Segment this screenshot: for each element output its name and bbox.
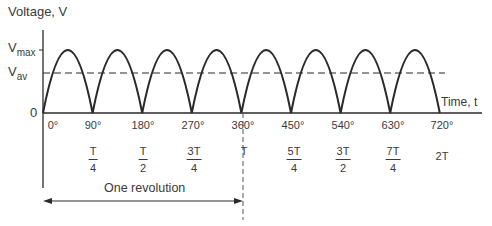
angle-tick: 450° (282, 119, 305, 131)
angle-tick: 540° (332, 119, 355, 131)
arrow-head-right-icon (234, 198, 243, 204)
angle-tick: 360° (232, 119, 255, 131)
time-tick: 2T (436, 150, 449, 162)
vav-label: Vav (8, 64, 27, 82)
time-tick: T2 (139, 145, 148, 175)
time-tick: T (241, 145, 248, 157)
angle-tick: 180° (132, 119, 155, 131)
time-tick: 3T4 (187, 145, 202, 175)
time-tick: T4 (89, 145, 98, 175)
angle-tick: 720° (431, 119, 454, 131)
time-tick: 7T4 (386, 145, 401, 175)
angle-tick: 270° (182, 119, 205, 131)
x-axis-label: Time, t (441, 95, 477, 109)
angle-tick: 630° (382, 119, 405, 131)
waveform-diagram (0, 0, 492, 226)
origin-label: 0 (30, 105, 37, 120)
time-tick: 5T4 (287, 145, 302, 175)
angle-tick: 0° (48, 119, 59, 131)
y-axis-label: Voltage, V (8, 4, 67, 19)
time-tick: 3T2 (336, 145, 351, 175)
revolution-label: One revolution (104, 181, 185, 195)
rectified-sine-wave (43, 50, 440, 113)
angle-tick: 90° (85, 119, 102, 131)
arrow-head-left-icon (43, 198, 52, 204)
vmax-label: Vmax (8, 40, 36, 58)
